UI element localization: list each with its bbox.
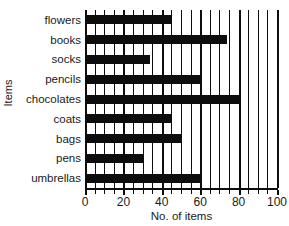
x-axis-tick-labels: 020406080100 <box>85 195 278 210</box>
y-tick-label-bags: bags <box>56 132 81 146</box>
bar-flowers <box>85 15 171 24</box>
x-tick-95 <box>267 190 268 194</box>
x-tick-45 <box>171 190 172 194</box>
bar-coats <box>85 114 171 123</box>
x-axis-title: No. of items <box>85 210 278 222</box>
x-tick-50 <box>181 190 182 194</box>
x-tick-25 <box>133 190 134 194</box>
bar-pencils <box>85 75 200 84</box>
x-tick-label-40: 40 <box>155 195 168 209</box>
x-tick-90 <box>258 190 259 194</box>
y-tick-label-pens: pens <box>56 151 81 165</box>
y-tick-label-books: books <box>50 33 81 47</box>
x-tick-30 <box>143 190 144 194</box>
x-tick-label-20: 20 <box>117 195 130 209</box>
x-tick-15 <box>114 190 115 194</box>
x-tick-75 <box>229 190 230 194</box>
gridline-90 <box>258 10 259 188</box>
x-tick-label-60: 60 <box>194 195 207 209</box>
y-axis-title: Items <box>0 0 16 186</box>
gridline-100 <box>277 10 279 188</box>
y-tick-label-socks: socks <box>52 52 81 66</box>
x-tick-35 <box>152 190 153 194</box>
bar-pens <box>85 154 143 163</box>
y-tick-label-pencils: pencils <box>45 72 81 86</box>
x-tick-label-80: 80 <box>232 195 245 209</box>
y-axis-tick-labels: flowersbookssockspencilschocolatescoatsb… <box>16 10 83 188</box>
gridline-95 <box>267 10 268 188</box>
plot-area <box>85 10 277 188</box>
bar-chocolates <box>85 95 239 104</box>
x-tick-label-100: 100 <box>267 195 287 209</box>
y-tick-label-flowers: flowers <box>45 13 81 27</box>
bar-socks <box>85 55 150 64</box>
x-tick-55 <box>191 190 192 194</box>
x-tick-85 <box>248 190 249 194</box>
y-tick-label-umbrellas: umbrellas <box>31 171 81 185</box>
bar-chart: Items flowersbookssockspencilschocolates… <box>0 0 289 226</box>
x-tick-5 <box>95 190 96 194</box>
x-tick-10 <box>104 190 105 194</box>
x-tick-label-0: 0 <box>82 195 89 209</box>
x-tick-65 <box>210 190 211 194</box>
bar-bags <box>85 134 181 143</box>
bar-umbrellas <box>85 174 200 183</box>
y-tick-label-coats: coats <box>54 112 82 126</box>
y-axis-spine <box>85 10 87 188</box>
gridline-80 <box>239 10 241 188</box>
x-tick-70 <box>219 190 220 194</box>
y-axis-title-text: Items <box>2 80 14 107</box>
y-tick-label-chocolates: chocolates <box>26 92 81 106</box>
bar-books <box>85 35 227 44</box>
gridline-85 <box>248 10 249 188</box>
